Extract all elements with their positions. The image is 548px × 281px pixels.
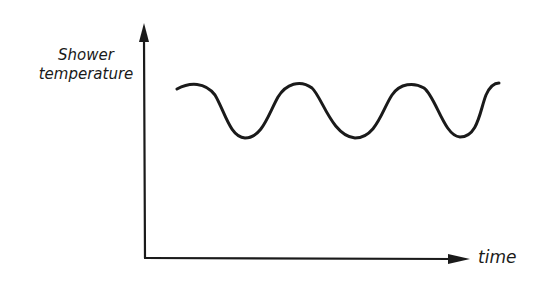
graph-canvas <box>0 0 548 281</box>
y-axis-label: Shower temperature <box>26 46 146 84</box>
x-axis-arrowhead-icon <box>448 254 470 264</box>
temperature-curve <box>177 83 499 138</box>
y-axis-label-line1: Shower <box>26 46 146 65</box>
x-axis-label: time <box>478 248 516 267</box>
x-axis <box>145 254 470 264</box>
y-axis-arrowhead-icon <box>139 23 149 42</box>
y-axis-label-line2: temperature <box>26 65 146 84</box>
